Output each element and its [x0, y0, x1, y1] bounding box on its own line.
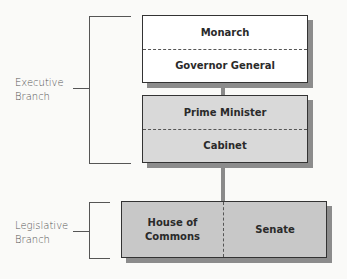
- executive-branch-label: Executive Branch: [15, 76, 64, 104]
- executive-label-line1: Executive: [15, 76, 64, 90]
- legislative-bracket-top: [89, 202, 110, 203]
- legislative-bracket-tick: [73, 231, 90, 232]
- parliament-box: House of Commons Senate: [121, 201, 327, 258]
- government-box: Prime Minister Cabinet: [142, 95, 308, 163]
- legislative-label-line1: Legislative: [15, 219, 68, 233]
- house-of-commons-label: House of Commons: [134, 216, 211, 244]
- monarch-cell: Monarch: [143, 16, 307, 49]
- executive-bracket-tick: [73, 88, 90, 89]
- legislative-bracket-bottom: [89, 258, 110, 259]
- executive-bracket-vertical: [89, 16, 90, 164]
- executive-bracket-bottom: [89, 163, 131, 164]
- cabinet-cell: Cabinet: [143, 130, 307, 162]
- legislative-label-line2: Branch: [15, 233, 68, 247]
- executive-bracket-top: [89, 16, 131, 17]
- legislative-branch-label: Legislative Branch: [15, 219, 68, 247]
- crown-box: Monarch Governor General: [142, 15, 308, 83]
- executive-label-line2: Branch: [15, 90, 64, 104]
- governor-general-cell: Governor General: [143, 50, 307, 82]
- connector-government-parliament: [221, 163, 225, 202]
- senate-cell: Senate: [224, 202, 326, 257]
- house-of-commons-cell: House of Commons: [122, 202, 223, 257]
- prime-minister-cell: Prime Minister: [143, 96, 307, 129]
